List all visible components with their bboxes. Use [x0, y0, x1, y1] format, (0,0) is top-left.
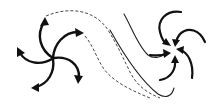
spiral-arm — [176, 30, 205, 43]
arrow-head-icon — [31, 83, 39, 92]
arrow-head-icon — [171, 55, 179, 63]
arrow-head-icon — [40, 17, 49, 26]
spiral-arm — [53, 32, 78, 58]
arrow-head-icon — [74, 75, 83, 84]
spiral-arm — [54, 58, 79, 78]
arrow-head-icon — [75, 28, 84, 37]
dashed-trajectory — [46, 11, 160, 98]
spiral-arm — [180, 50, 192, 78]
solid-trajectory-lower — [110, 30, 174, 96]
arrow-head-icon — [163, 49, 171, 58]
spiral-arm — [40, 22, 53, 58]
arrow-head-icon — [176, 46, 184, 54]
diverging-vortex — [17, 17, 84, 92]
converging-vortex — [150, 12, 205, 80]
vortex-flow-diagram — [0, 0, 219, 109]
arrow-head-icon — [172, 39, 180, 47]
solid-trajectory-upper — [124, 14, 166, 57]
